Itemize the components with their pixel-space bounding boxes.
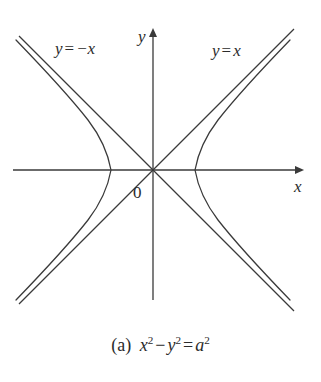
caption-equals-operator: = — [181, 335, 195, 355]
caption-a-exponent: 2 — [204, 334, 210, 346]
asymptote-y-equals-minus-x-line — [19, 36, 294, 311]
origin-label: 0 — [133, 184, 142, 201]
asymptote-positive-label-rhs: x — [233, 41, 241, 60]
caption-minus-operator: − — [153, 335, 167, 355]
asymptote-negative-label-equals: = — [63, 39, 77, 58]
asymptote-y-equals-x-line — [19, 29, 294, 304]
caption-tag: (a) — [111, 335, 131, 355]
hyperbola-plot-canvas — [0, 0, 321, 382]
caption-a-base: a — [195, 335, 204, 355]
caption-x-base: x — [140, 335, 148, 355]
asymptote-negative-label: y=−x — [55, 40, 95, 57]
y-axis-label: y — [138, 28, 146, 45]
asymptote-positive-label: y=x — [212, 42, 241, 59]
asymptote-negative-label-rhs: −x — [76, 39, 95, 58]
x-axis-label: x — [294, 178, 302, 195]
asymptote-negative-label-var: y — [55, 39, 63, 58]
figure-caption: (a) x2−y2=a2 — [0, 334, 321, 356]
hyperbola-figure: y x 0 y=−x y=x (a) x2−y2=a2 — [0, 0, 321, 382]
asymptote-positive-label-equals: = — [220, 41, 234, 60]
asymptote-positive-label-var: y — [212, 41, 220, 60]
